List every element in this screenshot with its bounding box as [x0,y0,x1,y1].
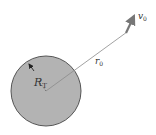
distance-label: r0 [95,56,103,67]
velocity-arrow-icon [126,16,134,33]
orbit-diagram: RT r0 v0 [0,0,156,135]
velocity-label: v0 [138,11,147,22]
